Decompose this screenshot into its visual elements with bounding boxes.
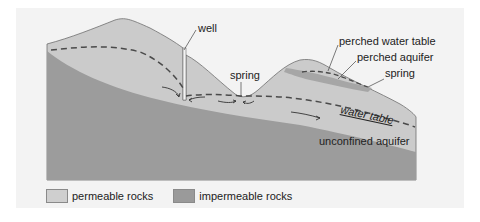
label-spring-hill: spring: [385, 67, 415, 79]
legend-item-impermeable: impermeable rocks: [173, 189, 292, 203]
label-unconfined-aquifer: unconfined aquifer: [319, 135, 410, 147]
diagram-canvas: well spring perched water table perched …: [0, 0, 480, 222]
legend-label-impermeable: impermeable rocks: [199, 190, 292, 202]
label-well: well: [197, 22, 217, 34]
legend: permeable rocks impermeable rocks: [46, 187, 312, 205]
permeable-swatch: [46, 189, 68, 203]
label-perched-water-table: perched water table: [339, 35, 436, 47]
legend-label-permeable: permeable rocks: [72, 190, 153, 202]
well-shaft: [183, 48, 186, 100]
legend-item-permeable: permeable rocks: [46, 189, 153, 203]
label-perched-aquifer: perched aquifer: [357, 51, 434, 63]
impermeable-swatch: [173, 189, 195, 203]
label-spring-valley: spring: [230, 69, 260, 81]
